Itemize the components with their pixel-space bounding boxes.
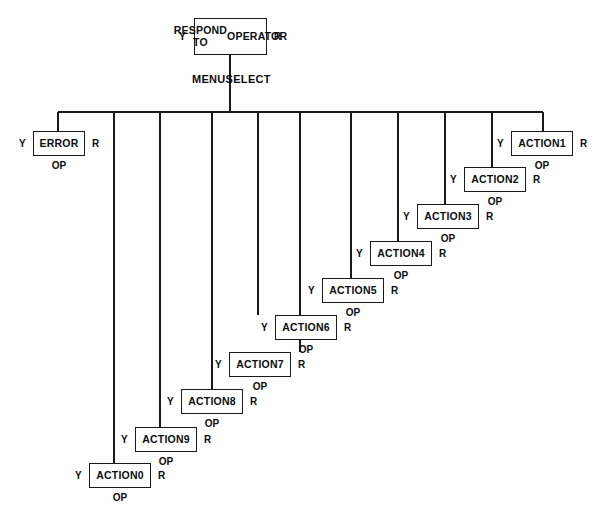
node-label: ACTION9 — [142, 434, 190, 446]
error-yes-label: Y — [19, 138, 26, 149]
action8-yes-label: Y — [167, 396, 174, 407]
action7-yes-label: Y — [215, 359, 222, 370]
root-return-label: R — [274, 31, 281, 42]
node-action8[interactable]: ACTION8 — [181, 389, 243, 414]
action3-return-label: R — [486, 211, 493, 222]
action9-return-label: R — [204, 434, 211, 445]
node-action1[interactable]: ACTION1 — [511, 131, 573, 156]
action4-yes-label: Y — [356, 248, 363, 259]
action3-yes-label: Y — [403, 211, 410, 222]
action8-return-label: R — [250, 396, 257, 407]
node-action2[interactable]: ACTION2 — [464, 167, 526, 192]
node-label: ACTION6 — [282, 322, 330, 334]
node-respond-to-operator[interactable]: RESPOND TO OPERATOR — [194, 18, 267, 55]
action1-yes-label: Y — [497, 138, 504, 149]
bus-label-menuselect: MENUSELECT — [192, 73, 271, 85]
action2-return-label: R — [533, 174, 540, 185]
node-action0[interactable]: ACTION0 — [89, 463, 151, 488]
action0-yes-label: Y — [75, 470, 82, 481]
action6-return-label: R — [344, 322, 351, 333]
action5-return-label: R — [391, 285, 398, 296]
action4-return-label: R — [439, 248, 446, 259]
connector-lines — [0, 0, 605, 512]
node-error[interactable]: ERROR — [33, 131, 85, 156]
diagram-canvas: RESPOND TO OPERATOR Y R MENUSELECT ERROR… — [0, 0, 605, 512]
action1-return-label: R — [580, 138, 587, 149]
node-action4[interactable]: ACTION4 — [370, 241, 432, 266]
action9-yes-label: Y — [121, 434, 128, 445]
action0-return-label: R — [158, 470, 165, 481]
node-action9[interactable]: ACTION9 — [135, 427, 197, 452]
node-label: ACTION1 — [518, 138, 566, 150]
node-label: ACTION0 — [96, 470, 144, 482]
node-label: ACTION2 — [471, 174, 519, 186]
action7-return-label: R — [298, 359, 305, 370]
node-label: ACTION3 — [424, 211, 472, 223]
node-action3[interactable]: ACTION3 — [417, 204, 479, 229]
node-label: ERROR — [40, 138, 79, 150]
node-label: ACTION8 — [188, 396, 236, 408]
node-action5[interactable]: ACTION5 — [322, 278, 384, 303]
error-op-label: OP — [33, 160, 85, 171]
node-label: ACTION5 — [329, 285, 377, 297]
action2-yes-label: Y — [450, 174, 457, 185]
action0-op-label: OP — [89, 492, 151, 503]
action5-yes-label: Y — [308, 285, 315, 296]
error-return-label: R — [92, 138, 99, 149]
node-label: ACTION7 — [236, 359, 284, 371]
node-label: ACTION4 — [377, 248, 425, 260]
root-yes-label: Y — [179, 31, 186, 42]
node-action6[interactable]: ACTION6 — [275, 315, 337, 340]
node-action7[interactable]: ACTION7 — [229, 352, 291, 377]
action6-yes-label: Y — [261, 322, 268, 333]
